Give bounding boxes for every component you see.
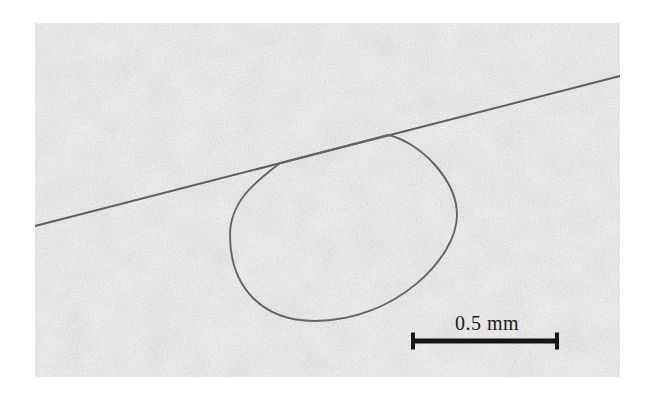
scale-bar-label: 0.5 mm [455, 312, 519, 334]
scale-bar-endcap-right [555, 333, 559, 350]
figure-page: 0.5 mm [0, 0, 651, 397]
photo-tone-variation [35, 23, 620, 377]
scale-bar-endcap-left [411, 333, 415, 350]
micrograph-photo: 0.5 mm [35, 23, 620, 377]
micrograph: 0.5 mm [0, 0, 651, 397]
scale-bar-line [412, 339, 558, 344]
